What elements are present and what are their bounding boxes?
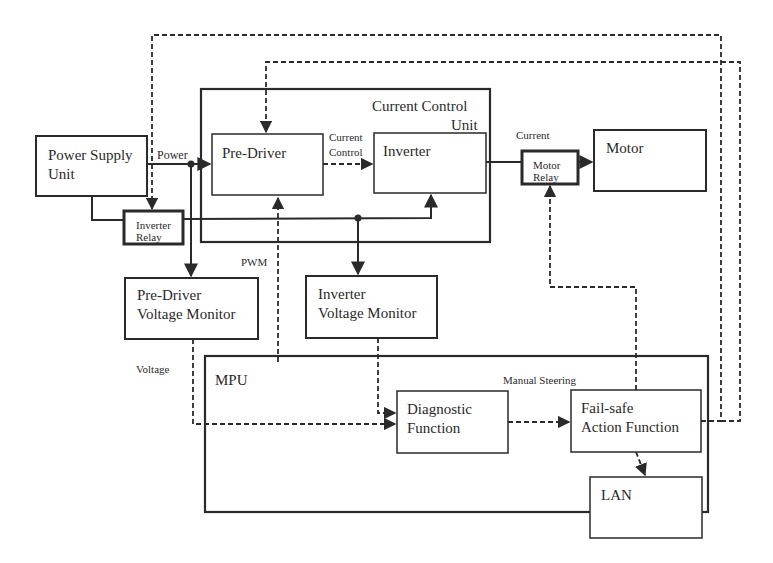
lan-label: LAN (601, 487, 632, 503)
junction-dot-power (188, 161, 195, 168)
diagnostic-function-label-1: Diagnostic (407, 401, 472, 417)
inverter-voltage-monitor-label-1: Inverter (318, 286, 365, 302)
power-supply-label-2: Unit (48, 166, 76, 182)
current-control-unit-label-1: Current Control (372, 98, 467, 114)
junction-dot-inverter (355, 215, 362, 222)
inverter-label: Inverter (383, 143, 430, 159)
inverter-voltage-monitor-label-2: Voltage Monitor (318, 305, 416, 321)
current-signal-label: Current (516, 129, 550, 141)
eps-block-diagram: Power Supply Unit Inverter Relay Current… (0, 0, 773, 563)
manual-steering-signal-label: Manual Steering (503, 374, 577, 386)
pwm-signal-label: PWM (241, 256, 268, 268)
power-supply-label-1: Power Supply (48, 147, 133, 163)
failsafe-action-function-label-2: Action Function (581, 419, 679, 435)
inverter-relay-label-2: Relay (136, 231, 162, 243)
motor-label: Motor (606, 140, 644, 156)
pre-driver-box (212, 134, 323, 195)
pre-driver-voltage-monitor-label-1: Pre-Driver (137, 287, 201, 303)
diagnostic-function-label-2: Function (407, 420, 461, 436)
mpu-label: MPU (215, 372, 248, 388)
power-signal-label: Power (157, 148, 188, 162)
motor-relay-label-2: Relay (533, 171, 559, 183)
motor-relay-label-1: Motor (533, 159, 561, 171)
current-control-signal-label-2: Control (329, 146, 363, 158)
failsafe-action-function-label-1: Fail-safe (581, 400, 634, 416)
current-control-signal-label-1: Current (329, 131, 363, 143)
inverter-relay-label-1: Inverter (136, 219, 171, 231)
inverter-box (374, 133, 486, 193)
pre-driver-label: Pre-Driver (222, 145, 286, 161)
voltage-signal-label: Voltage (136, 363, 170, 375)
current-control-unit-label-2: Unit (451, 117, 479, 133)
pre-driver-voltage-monitor-label-2: Voltage Monitor (137, 306, 235, 322)
